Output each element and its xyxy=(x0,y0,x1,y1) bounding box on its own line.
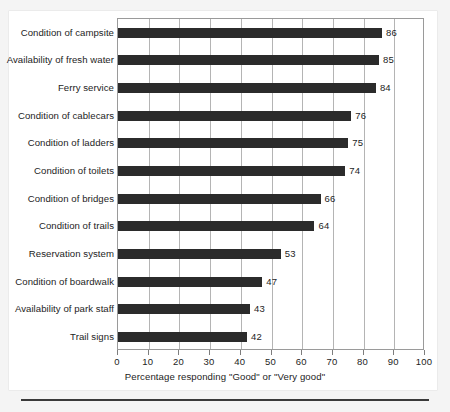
x-tick-label: 80 xyxy=(357,356,368,367)
x-tick-label: 60 xyxy=(296,356,307,367)
x-tick xyxy=(178,350,179,355)
bar-value-label: 75 xyxy=(352,136,363,149)
bar-row: Condition of toilets74 xyxy=(118,157,423,185)
x-tick-label: 90 xyxy=(388,356,399,367)
bar-value-label: 66 xyxy=(325,192,336,205)
bar-row: Condition of campsite86 xyxy=(118,19,423,47)
category-label: Trail signs xyxy=(70,329,114,344)
bar-row: Condition of cablecars76 xyxy=(118,102,423,130)
bar xyxy=(118,111,351,121)
bar-value-label: 86 xyxy=(386,26,397,39)
category-label: Availability of fresh water xyxy=(7,52,114,67)
bar-row: Reservation system53 xyxy=(118,240,423,268)
bar-row: Trail signs42 xyxy=(118,323,423,351)
bar xyxy=(118,28,382,38)
bar-row: Availability of park staff43 xyxy=(118,296,423,324)
category-label: Ferry service xyxy=(58,80,114,95)
plot-area: Condition of campsite86Availability of f… xyxy=(117,18,424,350)
chart-panel: Condition of campsite86Availability of f… xyxy=(9,11,437,390)
x-tick xyxy=(393,350,394,355)
x-tick-label: 70 xyxy=(326,356,337,367)
x-axis-title: Percentage responding "Good" or "Very go… xyxy=(0,371,450,382)
x-tick-label: 40 xyxy=(234,356,245,367)
bar xyxy=(118,138,348,148)
x-tick xyxy=(301,350,302,355)
category-label: Condition of ladders xyxy=(28,135,114,150)
figure-root: Condition of campsite86Availability of f… xyxy=(0,0,450,412)
bar xyxy=(118,304,250,314)
category-label: Condition of toilets xyxy=(34,163,114,178)
bar-value-label: 43 xyxy=(254,302,265,315)
bar-row: Ferry service84 xyxy=(118,74,423,102)
bar-value-label: 53 xyxy=(285,247,296,260)
bar xyxy=(118,55,379,65)
x-tick-label: 50 xyxy=(265,356,276,367)
bar xyxy=(118,83,376,93)
bottom-divider-rule xyxy=(21,399,429,401)
bar-row: Condition of trails64 xyxy=(118,213,423,241)
bar-row: Condition of ladders75 xyxy=(118,130,423,158)
bar xyxy=(118,194,321,204)
bar-value-label: 85 xyxy=(383,53,394,66)
x-tick-label: 100 xyxy=(416,356,432,367)
category-label: Reservation system xyxy=(29,246,114,261)
bar-row: Condition of bridges66 xyxy=(118,185,423,213)
bar-row: Availability of fresh water85 xyxy=(118,47,423,75)
x-tick xyxy=(117,350,118,355)
category-label: Condition of bridges xyxy=(28,191,114,206)
x-tick-label: 30 xyxy=(204,356,215,367)
x-tick xyxy=(424,350,425,355)
bar xyxy=(118,277,262,287)
bar xyxy=(118,221,314,231)
bar-value-label: 47 xyxy=(266,275,277,288)
x-tick xyxy=(363,350,364,355)
bar-value-label: 76 xyxy=(355,109,366,122)
x-tick-label: 10 xyxy=(142,356,153,367)
x-tick xyxy=(148,350,149,355)
category-label: Condition of campsite xyxy=(21,25,114,40)
x-tick-label: 0 xyxy=(114,356,119,367)
bar-value-label: 42 xyxy=(251,330,262,343)
bar-value-label: 74 xyxy=(349,164,360,177)
bar-value-label: 64 xyxy=(318,219,329,232)
category-label: Condition of boardwalk xyxy=(15,274,114,289)
bar xyxy=(118,249,281,259)
bar xyxy=(118,166,345,176)
x-tick xyxy=(240,350,241,355)
x-tick xyxy=(332,350,333,355)
x-tick xyxy=(209,350,210,355)
category-label: Condition of cablecars xyxy=(18,108,114,123)
x-tick-label: 20 xyxy=(173,356,184,367)
bar-value-label: 84 xyxy=(380,81,391,94)
x-tick xyxy=(271,350,272,355)
category-label: Condition of trails xyxy=(39,218,114,233)
bar-row: Condition of boardwalk47 xyxy=(118,268,423,296)
bar xyxy=(118,332,247,342)
category-label: Availability of park staff xyxy=(15,301,114,316)
